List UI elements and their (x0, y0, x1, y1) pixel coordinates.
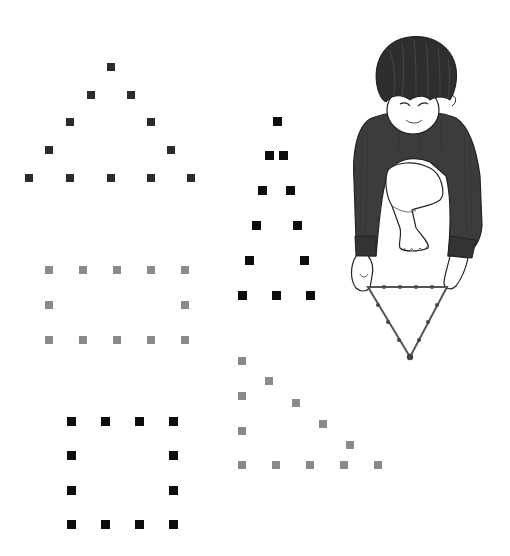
connect-dot (238, 461, 246, 469)
connect-dot (66, 118, 74, 126)
connect-dot (25, 174, 33, 182)
connect-dot (113, 336, 121, 344)
connect-dot (79, 266, 87, 274)
connect-dot (238, 392, 246, 400)
connect-dot (67, 451, 76, 460)
connect-dot (66, 174, 74, 182)
connect-dot (101, 520, 110, 529)
connect-dot (292, 399, 300, 407)
connect-dot (135, 520, 144, 529)
connect-dot (113, 266, 121, 274)
connect-dot (167, 146, 175, 154)
boy-with-string-triangle-illustration (340, 30, 500, 370)
connect-dot (147, 118, 155, 126)
connect-dot (238, 427, 246, 435)
connect-dot (187, 174, 195, 182)
connect-dot (252, 221, 261, 230)
connect-dot (45, 266, 53, 274)
connect-dot (87, 91, 95, 99)
connect-dot (169, 520, 178, 529)
connect-dot (272, 461, 280, 469)
connect-dot (67, 417, 76, 426)
connect-dot (340, 461, 348, 469)
connect-dot (101, 417, 110, 426)
connect-dot (67, 486, 76, 495)
connect-dot (293, 221, 302, 230)
connect-dot (238, 357, 246, 365)
connect-dot (286, 186, 295, 195)
connect-dot (67, 520, 76, 529)
connect-dot (107, 174, 115, 182)
connect-dot (127, 91, 135, 99)
connect-dot (181, 266, 189, 274)
connect-dot (306, 461, 314, 469)
connect-dot (346, 441, 354, 449)
connect-dot (279, 151, 288, 160)
connect-dot (147, 336, 155, 344)
connect-dot (45, 301, 53, 309)
connect-dot (147, 266, 155, 274)
connect-dot (135, 417, 144, 426)
connect-dot (374, 461, 382, 469)
connect-dot (245, 256, 254, 265)
connect-dot (306, 291, 315, 300)
connect-dot (45, 336, 53, 344)
activity-sheet (0, 0, 510, 556)
connect-dot (319, 420, 327, 428)
connect-dot (300, 256, 309, 265)
connect-dot (147, 174, 155, 182)
connect-dot (169, 417, 178, 426)
connect-dot (265, 151, 274, 160)
connect-dot (258, 186, 267, 195)
connect-dot (272, 291, 281, 300)
connect-dot (181, 301, 189, 309)
right-hand-shape (444, 256, 468, 289)
connect-dot (238, 291, 247, 300)
hair-shape (376, 36, 456, 102)
string-triangle (368, 287, 447, 357)
connect-dot (273, 117, 282, 126)
connect-dot (169, 486, 178, 495)
connect-dot (45, 146, 53, 154)
connect-dot (169, 451, 178, 460)
left-hand-shape (352, 256, 373, 291)
connect-dot (265, 377, 273, 385)
connect-dot (79, 336, 87, 344)
connect-dot (181, 336, 189, 344)
connect-dot (107, 63, 115, 71)
